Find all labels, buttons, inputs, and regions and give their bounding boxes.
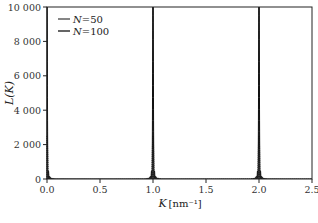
y-tick-label: 0 — [35, 174, 41, 185]
x-axis-label: K[nm⁻¹] — [157, 197, 201, 210]
legend-label: N=50 — [72, 14, 103, 25]
y-tick-label: 4 000 — [14, 105, 41, 116]
x-tick-label: 2.5 — [304, 184, 318, 195]
x-axis: 0.00.51.01.52.02.5 — [39, 179, 318, 195]
x-tick-label: 1.5 — [198, 184, 213, 195]
x-tick-label: 0.5 — [92, 184, 107, 195]
y-tick-label: 10 000 — [8, 2, 41, 13]
series-line-N50 — [47, 136, 312, 179]
legend-label: N=100 — [72, 26, 109, 37]
y-tick-label: 6 000 — [14, 70, 41, 81]
y-tick-label: 8 000 — [14, 36, 41, 47]
y-axis-label: L(K) — [3, 81, 16, 106]
x-tick-label: 2.0 — [251, 184, 266, 195]
x-tick-label: 1.0 — [145, 184, 160, 195]
x-tick-label: 0.0 — [39, 184, 54, 195]
legend: N=50N=100 — [58, 14, 109, 37]
y-tick-label: 2 000 — [14, 139, 41, 150]
chart: 0.00.51.01.52.02.5 02 0004 0006 0008 000… — [0, 0, 318, 223]
